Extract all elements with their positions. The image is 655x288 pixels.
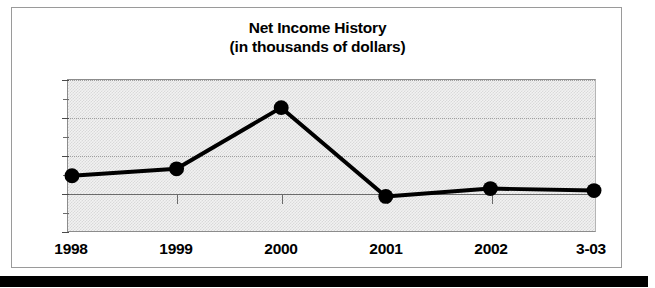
xtick-label-2000: 2000: [264, 240, 297, 258]
series-polyline: [72, 108, 594, 197]
ytick-minus1000: [62, 232, 69, 233]
data-point-1999: [169, 161, 184, 176]
xtick-label-1999: 1999: [159, 240, 192, 258]
data-point-3-03: [587, 183, 602, 198]
plot-area: 3000 2000 1000 0 -1000: [67, 79, 596, 232]
chart-subtitle: (in thousands of dollars): [12, 37, 623, 56]
data-point-2001: [378, 189, 393, 204]
xtick-label-3-03: 3-03: [576, 240, 606, 258]
data-point-2000: [274, 100, 289, 115]
chart-figure: Net Income History (in thousands of doll…: [11, 7, 622, 268]
page-bottom-bar: [0, 276, 648, 287]
xtick-label-1998: 1998: [54, 240, 87, 258]
xtick-label-2001: 2001: [369, 240, 402, 258]
chart-title-block: Net Income History (in thousands of doll…: [12, 18, 623, 56]
x-axis-labels: 1998 1999 2000 2001 2002 3-03: [67, 240, 596, 264]
data-series-line: [68, 80, 595, 231]
xtick-label-2002: 2002: [474, 240, 507, 258]
data-point-2002: [483, 181, 498, 196]
page-title: Net Income History: [12, 18, 623, 37]
data-point-1998: [65, 168, 80, 183]
